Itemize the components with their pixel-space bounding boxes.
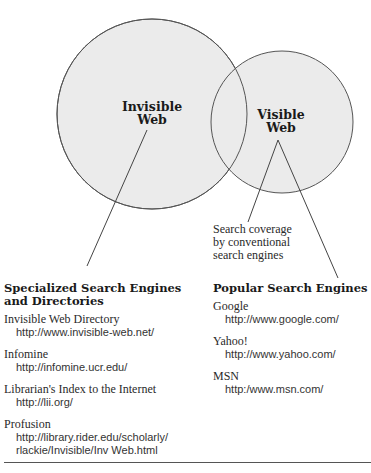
specialized-heading: Specialized Search Engines and Directori… — [4, 282, 204, 308]
entry-url[interactable]: http:/www.msn.com/ — [213, 383, 371, 396]
entry-url[interactable]: http://www.google.com/ — [213, 313, 371, 326]
specialized-heading-line2: and Directories — [4, 295, 204, 308]
list-item: MSN http:/www.msn.com/ — [213, 370, 371, 396]
list-item: Google http://www.google.com/ — [213, 300, 371, 326]
invisible-web-label: Invisible Web — [112, 100, 192, 126]
list-item: Infomine http://infomine.ucr.edu/ — [4, 348, 204, 374]
entry-name: Profusion — [4, 418, 204, 431]
invisible-web-label-line2: Web — [112, 113, 192, 126]
popular-engines-list: Popular Search Engines Google http://www… — [213, 282, 371, 405]
entry-name: Infomine — [4, 348, 204, 361]
entry-url[interactable]: http://lii.org/ — [4, 396, 204, 409]
search-coverage-caption: Search coverage by conventional search e… — [213, 223, 292, 262]
entry-name: Invisible Web Directory — [4, 313, 204, 326]
popular-heading: Popular Search Engines — [213, 282, 371, 295]
entry-url[interactable]: http://infomine.ucr.edu/ — [4, 361, 204, 374]
bottom-divider — [4, 462, 371, 463]
list-item: Librarian's Index to the Internet http:/… — [4, 383, 204, 409]
caption-line3: search engines — [213, 249, 292, 262]
entry-url[interactable]: http://www.invisible-web.net/ — [4, 326, 204, 339]
venn-diagram-figure: Invisible Web Visible Web Search coverag… — [0, 0, 371, 473]
entry-url[interactable]: http://library.rider.edu/scholarly/ rlac… — [4, 431, 204, 457]
specialized-engines-list: Specialized Search Engines and Directori… — [4, 282, 204, 466]
entry-name: MSN — [213, 370, 371, 383]
visible-web-label: Visible Web — [246, 108, 316, 134]
list-item: Yahoo! http://www.yahoo.com/ — [213, 335, 371, 361]
entry-url[interactable]: http://www.yahoo.com/ — [213, 348, 371, 361]
entry-name: Librarian's Index to the Internet — [4, 383, 204, 396]
list-item: Profusion http://library.rider.edu/schol… — [4, 418, 204, 457]
list-item: Invisible Web Directory http://www.invis… — [4, 313, 204, 339]
visible-web-label-line2: Web — [246, 121, 316, 134]
entry-name: Yahoo! — [213, 335, 371, 348]
entry-name: Google — [213, 300, 371, 313]
